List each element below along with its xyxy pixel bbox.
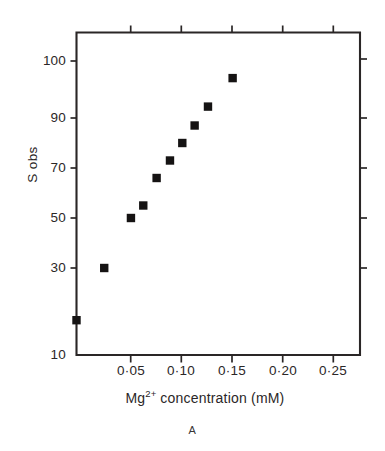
- data-point: [228, 74, 236, 82]
- x-tick-label-025: 0·25: [308, 364, 358, 378]
- x-tick-label-010: 0·10: [156, 364, 206, 378]
- x-tick-label-015: 0·15: [207, 364, 257, 378]
- y-axis-title: S obs: [25, 135, 40, 195]
- data-point: [100, 264, 108, 272]
- x-axis-title: Mg2+ concentration (mM): [76, 388, 334, 406]
- y-tick-label-10: 10: [38, 348, 66, 362]
- data-point: [178, 139, 186, 147]
- data-point-series: [72, 74, 237, 325]
- x-tick-label-005: 0·05: [106, 364, 156, 378]
- plot-frame: [77, 33, 361, 356]
- data-point: [190, 121, 198, 129]
- x-axis-title-suffix: concentration (mM): [156, 390, 284, 406]
- data-point: [166, 156, 174, 164]
- figure-panel-a: 100 90 70 50 30 10 0·05 0·10 0·15 0·20 0…: [0, 0, 385, 451]
- y-tick-label-90: 90: [38, 111, 66, 125]
- x-tick-label-020: 0·20: [258, 364, 308, 378]
- data-point: [139, 201, 147, 209]
- data-point: [72, 316, 80, 324]
- y-tick-label-100: 100: [38, 54, 66, 68]
- x-axis-title-prefix: Mg: [126, 390, 146, 406]
- y-tick-label-50: 50: [38, 211, 66, 225]
- panel-caption: A: [0, 424, 385, 436]
- x-axis-ticks-bottom: [131, 355, 334, 363]
- data-point: [127, 214, 135, 222]
- data-point: [152, 174, 160, 182]
- data-point: [204, 102, 212, 110]
- y-tick-label-30: 30: [38, 261, 66, 275]
- x-axis-title-superscript: 2+: [145, 388, 156, 399]
- y-tick-label-70: 70: [38, 161, 66, 175]
